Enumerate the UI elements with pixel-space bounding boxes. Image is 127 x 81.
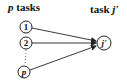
task-graph: 1 2 p j' (0, 0, 127, 81)
node-j-label: j' (99, 38, 107, 48)
ellipsis-dots (25, 50, 26, 65)
node-j-prime: j' (97, 36, 111, 50)
node-2-label: 2 (24, 38, 29, 48)
node-p: p (18, 66, 30, 78)
edge-1-to-j (32, 28, 96, 41)
node-1: 1 (20, 21, 32, 33)
node-2: 2 (20, 37, 32, 49)
node-1-label: 1 (24, 22, 29, 32)
edge-p-to-j (30, 46, 96, 70)
node-p-label: p (21, 67, 27, 77)
